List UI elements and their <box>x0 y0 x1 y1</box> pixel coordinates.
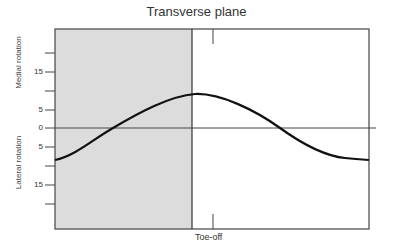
y-tick-label: 5 <box>29 105 43 114</box>
stance-phase-shading <box>55 29 192 229</box>
y-tick-label: 5 <box>29 142 43 151</box>
chart-plot <box>0 0 393 250</box>
y-tick-label: 15 <box>29 67 43 76</box>
y-tick-label: 0 <box>29 123 43 132</box>
y-axis-label-medial: Medial rotation <box>14 25 23 101</box>
y-tick-label: 15 <box>29 180 43 189</box>
toe-off-label: Toe-off <box>195 232 222 242</box>
y-axis-label-lateral: Lateral rotation <box>14 126 23 200</box>
